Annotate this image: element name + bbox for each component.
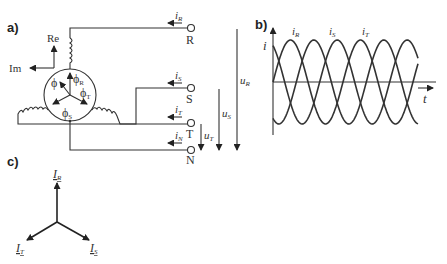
terminal-s-label: S: [186, 92, 193, 106]
panel-c: c) IR IT IS: [7, 154, 98, 256]
voltage-arrows: uR uS uT: [201, 29, 251, 150]
re-label: Re: [47, 32, 59, 44]
voltage-r-label: uR: [240, 74, 251, 88]
panel-a: a) Re Im ϕR ϕT ϕS ϕ: [7, 9, 251, 167]
flux-total-arrow-icon: [60, 82, 70, 95]
terminal-t-label: T: [186, 127, 194, 141]
phasor-s-arrow-icon: [57, 222, 89, 240]
coil-r-icon: [70, 38, 72, 69]
current-n-label: iN: [175, 129, 183, 143]
curve-i-r-label: iR: [292, 25, 300, 39]
panel-b: b) i t iR iS iT: [255, 17, 436, 135]
panel-c-label: c): [7, 154, 19, 169]
current-r-label: iR: [175, 9, 183, 23]
current-s-label: iS: [175, 69, 182, 83]
panel-a-label: a): [7, 20, 19, 35]
neutral-node: [69, 120, 72, 123]
flux-total-label: ϕ: [51, 76, 57, 90]
curve-i-t-label: iT: [362, 25, 370, 39]
three-phase-diagram: a) Re Im ϕR ϕT ϕS ϕ: [0, 0, 447, 264]
flux-s-label: ϕS: [62, 106, 72, 121]
phasor-t-arrow-icon: [27, 222, 57, 240]
terminal-t: [188, 120, 195, 127]
re-im-axes: Re Im: [9, 32, 59, 74]
terminal-s: [188, 85, 195, 92]
wire-r: [70, 28, 187, 38]
voltage-t-label: uT: [204, 129, 215, 143]
terminal-n-label: N: [186, 153, 195, 167]
panel-b-label: b): [255, 17, 267, 32]
current-t-label: iT: [175, 103, 183, 117]
terminals: R S T N: [186, 25, 195, 168]
im-label: Im: [9, 62, 22, 74]
flux-t-label: ϕT: [80, 86, 91, 101]
terminal-r-label: R: [186, 33, 194, 47]
phasor-t-label: IT: [15, 241, 25, 256]
x-axis-label: t: [423, 91, 427, 106]
voltage-s-label: uS: [222, 107, 232, 121]
phasor-s-label: IS: [89, 241, 98, 256]
terminal-r: [188, 25, 195, 32]
y-axis-label: i: [263, 38, 267, 53]
current-arrows: iR iS iT iN: [168, 9, 183, 143]
flux-r-label: ϕR: [73, 72, 84, 87]
phasor-r-label: IR: [52, 167, 62, 182]
flux-s-arrow-icon: [53, 95, 70, 104]
curve-i-s-label: iS: [329, 25, 336, 39]
wire-n: [70, 121, 187, 150]
